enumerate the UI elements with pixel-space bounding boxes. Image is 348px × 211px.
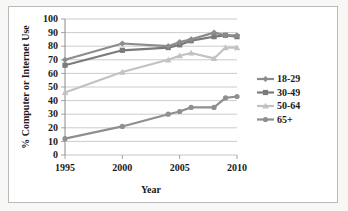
y-tick-label-50: 50 bbox=[48, 81, 58, 92]
line-chart-canvas: 01020304050607080901001995200020052010Ye… bbox=[9, 7, 337, 202]
y-axis-title: % Computer or Internet Use bbox=[20, 25, 31, 149]
legend-item-65+[interactable]: 65+ bbox=[257, 114, 293, 125]
legend-marker-18-29 bbox=[262, 76, 268, 82]
legend-label-30-49: 30-49 bbox=[277, 87, 300, 98]
legend-label-18-29: 18-29 bbox=[277, 73, 300, 84]
y-tick-label-90: 90 bbox=[48, 27, 58, 38]
data-point-65+-2010 bbox=[234, 94, 239, 99]
legend-label-50-64: 50-64 bbox=[277, 100, 300, 111]
x-tick-label-2005: 2005 bbox=[170, 162, 190, 173]
legend-marker-65+ bbox=[263, 117, 268, 122]
x-tick-label-2010: 2010 bbox=[227, 162, 247, 173]
y-tick-label-10: 10 bbox=[48, 136, 58, 147]
y-tick-label-20: 20 bbox=[48, 122, 58, 133]
data-point-65+-1995 bbox=[62, 136, 67, 141]
legend-item-30-49[interactable]: 30-49 bbox=[257, 87, 300, 98]
y-tick-label-30: 30 bbox=[48, 108, 58, 119]
data-point-65+-2000 bbox=[120, 124, 125, 129]
y-tick-label-100: 100 bbox=[43, 13, 58, 24]
data-point-65+-2004 bbox=[166, 112, 171, 117]
data-point-65+-2005 bbox=[177, 109, 182, 114]
legend-marker-30-49 bbox=[263, 90, 268, 95]
y-tick-label-70: 70 bbox=[48, 54, 58, 65]
data-point-65+-2009 bbox=[223, 95, 228, 100]
x-tick-label-1995: 1995 bbox=[55, 162, 75, 173]
x-axis-title: Year bbox=[141, 184, 162, 195]
data-point-30-49-1995 bbox=[62, 63, 67, 68]
data-point-30-49-2000 bbox=[120, 48, 125, 53]
legend-label-65+: 65+ bbox=[277, 114, 293, 125]
data-point-65+-2006 bbox=[189, 105, 194, 110]
y-tick-label-0: 0 bbox=[53, 149, 58, 160]
data-point-65+-2008 bbox=[211, 105, 216, 110]
chart-frame: 01020304050607080901001995200020052010Ye… bbox=[8, 6, 338, 203]
chart-figure: 01020304050607080901001995200020052010Ye… bbox=[0, 0, 348, 211]
legend-item-18-29[interactable]: 18-29 bbox=[257, 73, 300, 84]
legend-item-50-64[interactable]: 50-64 bbox=[257, 100, 300, 111]
x-tick-label-2000: 2000 bbox=[112, 162, 132, 173]
y-tick-label-40: 40 bbox=[48, 95, 58, 106]
y-tick-label-80: 80 bbox=[48, 40, 58, 51]
y-tick-label-60: 60 bbox=[48, 68, 58, 79]
